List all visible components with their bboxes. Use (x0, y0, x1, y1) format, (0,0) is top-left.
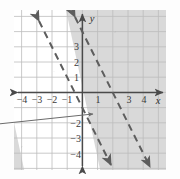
x-axis-label: x (155, 95, 161, 106)
x-tick-label--3: −3 (32, 94, 43, 105)
y-tick-label-3: 3 (74, 41, 79, 52)
graph-figure: −4 −3 −2 −1 1 3 4 3 2 1 −2 −3 −4 x y (0, 0, 180, 179)
x-tick-label-4: 4 (142, 94, 147, 105)
x-tick-label--4: −4 (17, 94, 28, 105)
y-axis-label: y (89, 13, 95, 24)
coordinate-plane-svg: −4 −3 −2 −1 1 3 4 3 2 1 −2 −3 −4 x y (0, 0, 180, 179)
y-tick-label--4: −4 (70, 149, 81, 160)
y-tick-label-2: 2 (74, 57, 79, 68)
x-tick-label-3: 3 (127, 94, 132, 105)
x-tick-label--2: −2 (47, 94, 58, 105)
x-tick-label--1: −1 (62, 94, 73, 105)
y-tick-label--3: −3 (70, 133, 81, 144)
y-tick-label--2: −2 (70, 118, 81, 129)
y-tick-label-1: 1 (74, 72, 79, 83)
x-tick-label-1: 1 (96, 94, 101, 105)
